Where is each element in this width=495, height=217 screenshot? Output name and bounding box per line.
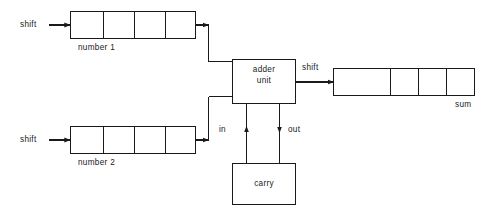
register-number1-box: [71, 12, 196, 39]
adder-unit-label-line1: adder: [253, 64, 275, 75]
shift-label-number1: shift: [20, 21, 37, 29]
register-sum-label: sum: [455, 101, 471, 109]
carry-in-label: in: [219, 126, 226, 134]
wire-number2-to-adder: [196, 97, 233, 141]
adder-unit-label: adder unit: [253, 64, 275, 86]
adder-block-diagram: shift number 1 shift number 2 adder unit…: [0, 0, 495, 217]
carry-label: carry: [254, 178, 274, 189]
register-sum-box: [334, 69, 475, 96]
carry-out-label: out: [288, 126, 300, 134]
register-number2-label: number 2: [78, 159, 115, 167]
carry-label-line1: carry: [254, 178, 274, 189]
shift-label-number2: shift: [20, 136, 37, 144]
register-number1-label: number 1: [78, 44, 115, 52]
diagram-canvas: [0, 0, 495, 217]
shift-label-sum: shift: [302, 64, 319, 72]
adder-unit-label-line2: unit: [253, 75, 275, 86]
wire-number1-to-adder: [196, 25, 233, 62]
register-number2-box: [71, 127, 196, 154]
